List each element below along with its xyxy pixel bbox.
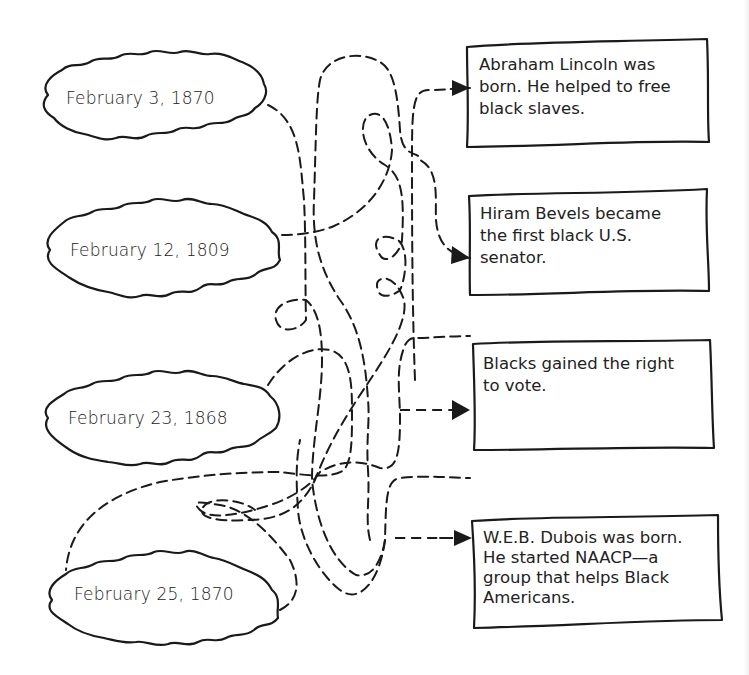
event-2-line-2: the first black U.S. <box>480 225 661 247</box>
event-3-line-2: to vote. <box>483 375 674 397</box>
maze-path-2 <box>202 114 406 521</box>
event-1-line-1: Abraham Lincoln was <box>479 54 671 76</box>
arrow-icon-3 <box>452 400 470 420</box>
maze-path-5 <box>66 349 352 570</box>
event-text-2: Hiram Bevels became the first black U.S.… <box>480 203 661 269</box>
event-text-4: W.E.B. Dubois was born. He started NAACP… <box>483 528 683 608</box>
date-label-4: February 25, 1870 <box>74 584 234 604</box>
event-1-line-2: born. He helped to free <box>479 76 671 98</box>
arrow-icon-2 <box>451 246 470 264</box>
event-text-1: Abraham Lincoln was born. He helped to f… <box>479 54 671 120</box>
event-4-line-2: He started NAACP—a <box>483 548 683 568</box>
date-label-3: February 23, 1868 <box>68 408 228 428</box>
event-2-line-3: senator. <box>480 247 661 269</box>
date-label-1: February 3, 1870 <box>66 88 215 108</box>
event-1-line-3: black slaves. <box>479 98 671 120</box>
date-label-2: February 12, 1809 <box>70 240 230 260</box>
event-3-line-1: Blacks gained the right <box>483 353 674 375</box>
event-2-line-1: Hiram Bevels became <box>480 203 661 225</box>
event-text-3: Blacks gained the right to vote. <box>483 353 674 397</box>
arrow-icon-4 <box>454 530 472 546</box>
event-4-line-4: Americans. <box>483 588 683 608</box>
event-4-line-1: W.E.B. Dubois was born. <box>483 528 683 548</box>
maze-path-3 <box>314 56 470 540</box>
page-edge <box>743 0 749 675</box>
event-4-line-3: group that helps Black <box>483 568 683 588</box>
